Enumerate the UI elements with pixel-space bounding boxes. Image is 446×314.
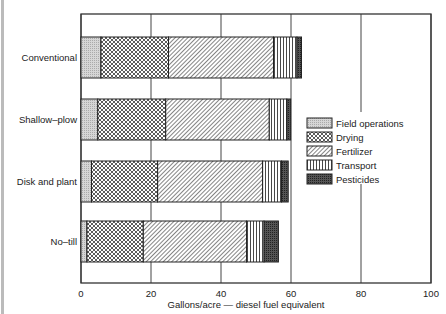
legend-label: Pesticides xyxy=(336,174,380,185)
legend-swatch xyxy=(307,132,332,142)
x-tick-label: 40 xyxy=(216,288,227,299)
legend-label: Drying xyxy=(336,132,363,143)
bar-segment xyxy=(263,161,282,202)
x-tick-label: 0 xyxy=(78,288,83,299)
legend-swatch xyxy=(307,118,332,128)
legend: Field operationsDryingFertilizerTranspor… xyxy=(302,112,430,185)
bar-segment xyxy=(92,161,158,202)
x-tick-label: 80 xyxy=(356,288,367,299)
legend-label: Fertilizer xyxy=(336,146,372,157)
bar-segment xyxy=(297,37,302,78)
legend-swatch xyxy=(307,174,332,184)
category-label: Conventional xyxy=(22,52,77,63)
legend-swatch xyxy=(307,146,332,156)
bar-group: Disk and plant xyxy=(17,161,288,202)
bar-segment xyxy=(287,99,291,140)
bar-segment xyxy=(282,161,289,202)
legend-swatch xyxy=(307,160,332,170)
bar-segment xyxy=(247,221,264,262)
legend-label: Transport xyxy=(336,160,377,171)
bar-segment xyxy=(274,37,297,78)
bar-segment xyxy=(169,37,274,78)
bar-segment xyxy=(166,99,270,140)
x-axis-title: Gallons/acre — diesel fuel equivalent xyxy=(168,299,325,310)
bar-segment xyxy=(81,221,87,262)
bar-segment xyxy=(158,161,263,202)
category-label: Disk and plant xyxy=(17,176,78,187)
bar-segment xyxy=(81,37,101,78)
bar-segment xyxy=(264,221,278,262)
bar-segment xyxy=(98,99,166,140)
category-label: No–till xyxy=(51,236,77,247)
bar-segment xyxy=(87,221,143,262)
bar-segment xyxy=(101,37,169,78)
x-tick-label: 60 xyxy=(286,288,297,299)
x-tick-label: 20 xyxy=(146,288,157,299)
bar-segment xyxy=(81,99,98,140)
category-label: Shallow–plow xyxy=(19,114,77,125)
stacked-bar-chart: 020406080100ConventionalShallow–plowDisk… xyxy=(0,0,446,314)
bar-group: Shallow–plow xyxy=(19,99,291,140)
bar-group: No–till xyxy=(51,221,279,262)
x-tick-label: 100 xyxy=(423,288,439,299)
legend-label: Field operations xyxy=(336,118,404,129)
bar-group: Conventional xyxy=(22,37,302,78)
bar-segment xyxy=(81,161,92,202)
bar-segment xyxy=(143,221,246,262)
bar-segment xyxy=(269,99,287,140)
